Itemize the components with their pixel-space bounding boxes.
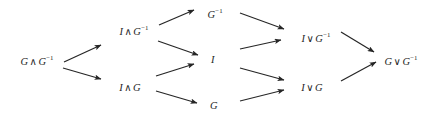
arrow-edge bbox=[240, 68, 284, 80]
arrow-edge bbox=[341, 32, 374, 52]
arrow-edge bbox=[158, 41, 198, 55]
node-superscript: −1 bbox=[410, 54, 417, 61]
node-superscript: −1 bbox=[141, 24, 148, 31]
node-label-n4: G−1 bbox=[207, 8, 222, 20]
node-label-n6: G bbox=[210, 101, 218, 112]
lattice-diagram: G∧G−1I∧G−1I∧GG−1IGI∨G−1I∨GG∨G−1 bbox=[0, 0, 432, 120]
node-operand-term: G bbox=[207, 9, 215, 20]
node-operator-symbol: ∧ bbox=[123, 26, 133, 37]
node-label-n3: I∧G bbox=[119, 83, 141, 94]
arrow-edge bbox=[240, 40, 281, 49]
node-operand-term: G bbox=[210, 100, 218, 111]
node-label-n7: I∨G−1 bbox=[302, 32, 331, 44]
node-superscript: −1 bbox=[323, 31, 330, 38]
arrow-edge bbox=[240, 90, 284, 101]
node-operand-term: G bbox=[315, 33, 323, 44]
node-base-term: G bbox=[384, 56, 392, 67]
arrow-edge bbox=[63, 68, 101, 79]
node-operand-term: G bbox=[133, 82, 141, 93]
node-operand-term: G bbox=[38, 56, 46, 67]
node-label-n8: I∨G bbox=[301, 83, 323, 94]
node-operand-term: G bbox=[402, 56, 410, 67]
arrow-edge bbox=[240, 13, 284, 29]
node-superscript: −1 bbox=[46, 54, 53, 61]
arrow-edge bbox=[156, 64, 194, 76]
node-operand-term: G bbox=[133, 26, 141, 37]
node-label-n2: I∧G−1 bbox=[120, 25, 149, 37]
node-superscript: −1 bbox=[215, 7, 222, 14]
node-operand-term: I bbox=[211, 54, 215, 65]
arrow-edge bbox=[156, 91, 197, 103]
node-operator-symbol: ∨ bbox=[305, 33, 315, 44]
arrow-edge bbox=[341, 62, 376, 81]
node-base-term: G bbox=[20, 56, 28, 67]
arrow-edge bbox=[64, 45, 101, 62]
node-operator-symbol: ∧ bbox=[123, 82, 133, 93]
node-operator-symbol: ∨ bbox=[305, 82, 315, 93]
node-label-n5: I bbox=[211, 55, 215, 66]
node-operator-symbol: ∨ bbox=[392, 56, 402, 67]
arrow-edge bbox=[159, 10, 194, 25]
node-label-n1: G∧G−1 bbox=[20, 55, 53, 67]
node-operand-term: G bbox=[315, 82, 323, 93]
node-label-n9: G∨G−1 bbox=[384, 55, 417, 67]
node-operator-symbol: ∧ bbox=[28, 56, 38, 67]
